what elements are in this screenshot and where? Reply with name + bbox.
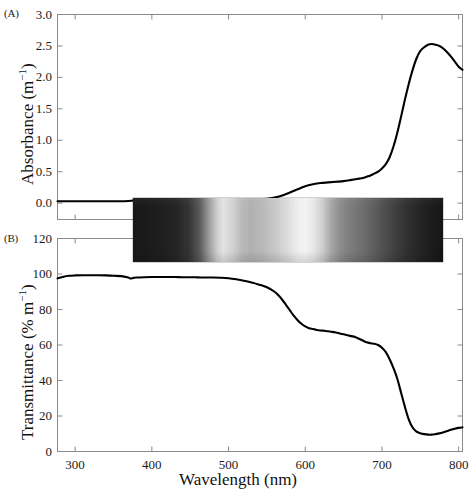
panel-b-frame [58,239,463,452]
panel-b-axes [58,239,463,452]
spectroscopy-figure: (A) (B) Absorbance (m−1) Transmittance (… [0,0,476,495]
transmittance-curve [58,275,463,434]
absorbance-curve [58,44,463,201]
spectral-photograph-strip [133,198,443,262]
spectrum-noise-overlay [133,198,443,262]
